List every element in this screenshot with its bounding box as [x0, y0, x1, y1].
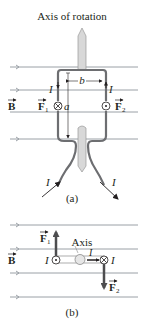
- force2-subscript-b: 2: [116, 287, 120, 295]
- axis-of-rotation-label: Axis of rotation: [37, 10, 107, 22]
- force2-subscript-a: 2: [122, 106, 126, 114]
- caption-b: (b): [66, 306, 79, 319]
- magnetic-torque-diagram: Axis of rotation b I I: [0, 0, 144, 333]
- figure-b: Axis I I I F 1 F 2 B (b): [8, 223, 138, 319]
- into-page-symbol-f1: [54, 102, 62, 110]
- force1-subscript-a: 1: [45, 106, 49, 114]
- field-label-b-a: B: [8, 100, 16, 112]
- current-label-left: I: [48, 83, 54, 95]
- caption-a: (a): [66, 192, 79, 205]
- height-label-a: a: [64, 100, 70, 112]
- current-loop-left-lead: [58, 111, 76, 185]
- axis-cross-section: [75, 255, 85, 265]
- force2-label-a: F: [115, 100, 122, 112]
- field-label-b-b: B: [8, 254, 16, 266]
- into-page-symbol-b: [100, 256, 108, 264]
- force1-subscript-b: 1: [47, 238, 51, 246]
- current-label-b-left: I: [44, 254, 50, 266]
- force2-label-b: F: [109, 281, 116, 293]
- figure-a: Axis of rotation b I I: [8, 10, 138, 205]
- current-loop-right-lead: [88, 111, 106, 185]
- outgoing-current-label: I: [111, 176, 117, 188]
- rotation-shaft-top: [78, 28, 86, 70]
- incoming-current-arrow: [42, 182, 60, 197]
- current-label-b-right: I: [110, 254, 116, 266]
- incoming-current-label: I: [45, 176, 51, 188]
- out-of-page-symbol-b: [52, 256, 60, 264]
- out-of-page-symbol-f2: [102, 102, 110, 110]
- current-label-b-mid: I: [88, 247, 93, 258]
- rotation-shaft-bottom: [78, 126, 86, 172]
- current-label-right: I: [108, 83, 114, 95]
- force1-label-b: F: [40, 232, 47, 244]
- force1-label-a: F: [38, 100, 45, 112]
- width-label-b: b: [79, 74, 85, 86]
